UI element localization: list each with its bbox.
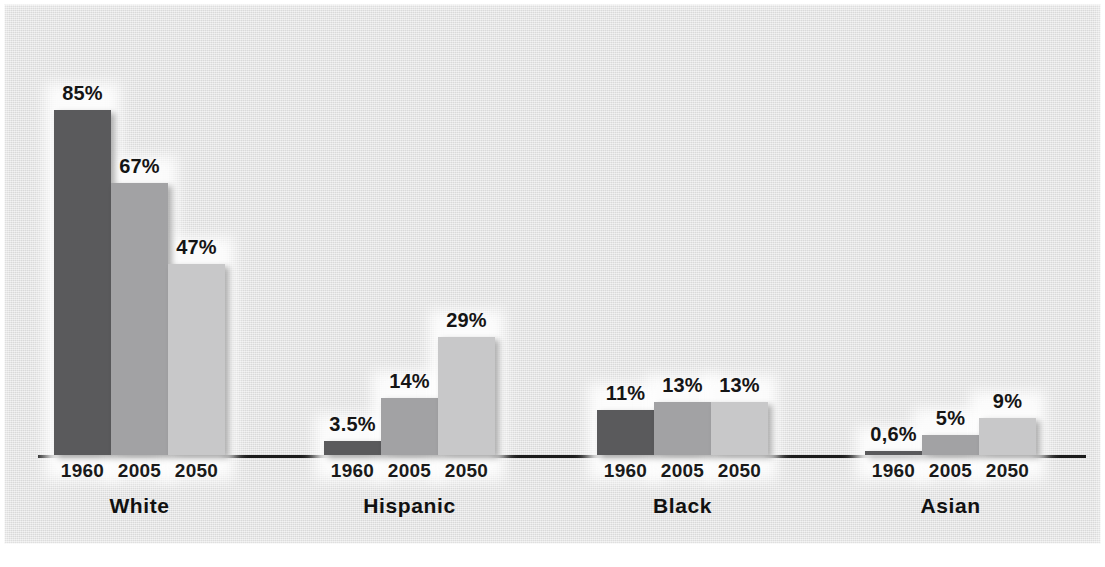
bar-value-label: 13% [719,374,760,397]
year-tick-row: 196020052050 [597,460,768,482]
bar-slot-1960[interactable]: 11% [597,410,654,455]
category-label-hispanic: Hispanic [324,494,495,518]
bar-slot-1960[interactable]: 3.5% [324,441,381,455]
category-label-black: Black [597,494,768,518]
category-label-asian: Asian [865,494,1036,518]
bar-value-label: 3.5% [329,413,375,436]
year-tick-row: 196020052050 [324,460,495,482]
bar-asian-2005[interactable]: 5% [922,435,979,455]
x-tick-2050: 2050 [168,460,225,482]
bar-asian-2050[interactable]: 9% [979,418,1036,455]
bar-asian-1960[interactable]: 0,6% [865,451,922,455]
bar-row: 85%67%47% [54,110,225,455]
bar-black-1960[interactable]: 11% [597,410,654,455]
x-tick-1960: 1960 [865,460,922,482]
bar-slot-2005[interactable]: 5% [922,435,979,455]
bar-group-black: 11%13%13%196020052050Black [597,0,768,567]
bar-hispanic-2050[interactable]: 29% [438,337,495,455]
x-tick-2050: 2050 [979,460,1036,482]
bar-value-label: 13% [662,374,703,397]
bar-value-label: 0,6% [870,423,916,446]
bar-row: 11%13%13% [597,402,768,455]
bar-black-2050[interactable]: 13% [711,402,768,455]
x-tick-2005: 2005 [381,460,438,482]
bar-value-label: 5% [936,407,965,430]
bar-slot-2050[interactable]: 9% [979,418,1036,455]
bar-value-label: 14% [389,370,430,393]
x-tick-2005: 2005 [654,460,711,482]
bar-white-2005[interactable]: 67% [111,183,168,455]
bar-white-1960[interactable]: 85% [54,110,111,455]
bar-slot-1960[interactable]: 0,6% [865,451,922,455]
bar-value-label: 85% [62,82,103,105]
year-tick-row: 196020052050 [54,460,225,482]
bar-slot-2050[interactable]: 47% [168,264,225,455]
x-tick-2050: 2050 [711,460,768,482]
bar-slot-2005[interactable]: 13% [654,402,711,455]
x-tick-1960: 1960 [54,460,111,482]
bar-group-asian: 0,6%5%9%196020052050Asian [865,0,1036,567]
bar-value-label: 67% [119,155,160,178]
bar-white-2050[interactable]: 47% [168,264,225,455]
bar-row: 3.5%14%29% [324,337,495,455]
plot-area: 85%67%47%196020052050White3.5%14%29%1960… [0,0,1105,567]
bar-slot-2005[interactable]: 14% [381,398,438,455]
bar-row: 0,6%5%9% [865,418,1036,455]
bar-slot-2050[interactable]: 29% [438,337,495,455]
bar-group-hispanic: 3.5%14%29%196020052050Hispanic [324,0,495,567]
bar-group-white: 85%67%47%196020052050White [54,0,225,567]
chart-figure: 85%67%47%196020052050White3.5%14%29%1960… [0,0,1105,567]
x-tick-2005: 2005 [111,460,168,482]
x-tick-2050: 2050 [438,460,495,482]
year-tick-row: 196020052050 [865,460,1036,482]
bar-slot-2005[interactable]: 67% [111,183,168,455]
bar-value-label: 11% [606,382,646,405]
bar-slot-2050[interactable]: 13% [711,402,768,455]
bar-value-label: 9% [993,390,1022,413]
x-tick-2005: 2005 [922,460,979,482]
bar-value-label: 47% [176,236,217,259]
bar-hispanic-1960[interactable]: 3.5% [324,441,381,455]
category-label-white: White [54,494,225,518]
bar-value-label: 29% [446,309,487,332]
x-tick-1960: 1960 [597,460,654,482]
bar-black-2005[interactable]: 13% [654,402,711,455]
x-tick-1960: 1960 [324,460,381,482]
bar-slot-1960[interactable]: 85% [54,110,111,455]
bar-hispanic-2005[interactable]: 14% [381,398,438,455]
